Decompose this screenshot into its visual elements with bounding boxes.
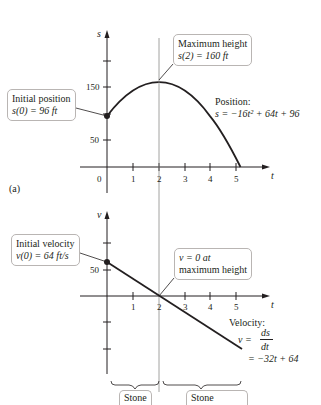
brace-right-icon	[163, 381, 241, 389]
panel-label-a: (a)	[9, 183, 20, 194]
callout-maximum-height-value: s(2) = 160 ft	[178, 50, 247, 62]
t-axis-arrow-icon	[262, 294, 270, 299]
s-axis-arrow-icon	[105, 30, 110, 38]
callout-zero-velocity-title: v = 0 at	[179, 252, 247, 264]
x-tick-0: 0	[97, 174, 102, 184]
x-tick-5-bottom: 5	[234, 302, 239, 312]
velocity-eq-rhs: = −32t + 64	[248, 353, 299, 364]
x-tick-4-bottom: 4	[208, 302, 213, 312]
velocity-eq-denominator: dt	[261, 341, 269, 352]
brace-left-icon	[111, 381, 159, 389]
t-axis-label-bottom: t	[271, 299, 274, 310]
t-axis-arrow-icon	[262, 165, 270, 170]
callout-initial-position: Initial position s(0) = 96 ft	[7, 89, 76, 121]
brace-label-right-text: Stone	[191, 392, 214, 403]
fraction-bar	[260, 339, 273, 340]
callout-maximum-height-title: Maximum height	[178, 38, 247, 50]
x-tick-3: 3	[183, 174, 188, 184]
callout-initial-position-value: s(0) = 96 ft	[12, 105, 71, 117]
brace-label-left-text: Stone	[124, 392, 147, 403]
x-tick-1: 1	[131, 174, 136, 184]
x-tick-3-bottom: 3	[183, 302, 188, 312]
callout-zero-velocity: v = 0 at maximum height	[174, 248, 252, 280]
y-tick-150: 150	[86, 82, 100, 92]
x-tick-2: 2	[157, 174, 162, 184]
callout-initial-velocity-value: v(0) = 64 ft/s	[16, 250, 75, 262]
position-curve	[107, 82, 241, 167]
callout-initial-velocity-title: Initial velocity	[16, 238, 75, 250]
position-equation: s = −16t² + 64t + 96	[215, 108, 299, 119]
brace-label-right: Stone	[186, 390, 248, 405]
t-axis-label: t	[271, 170, 274, 181]
v-axis-label: v	[97, 209, 101, 220]
v-tick-50: 50	[90, 265, 99, 275]
position-label: Position:	[215, 96, 251, 107]
velocity-label: Velocity:	[229, 317, 265, 328]
velocity-eq-numerator: ds	[261, 327, 270, 338]
s-axis-label: s	[97, 28, 101, 39]
brace-label-left: Stone	[119, 390, 152, 405]
callout-zero-velocity-value: maximum height	[179, 264, 247, 276]
x-tick-4: 4	[208, 174, 213, 184]
callout-initial-velocity: Initial velocity v(0) = 64 ft/s	[11, 234, 80, 266]
x-tick-1-bottom: 1	[131, 302, 136, 312]
callout-initial-position-title: Initial position	[12, 93, 71, 105]
x-tick-5: 5	[234, 174, 239, 184]
y-tick-50: 50	[90, 135, 99, 145]
callout-maximum-height: Maximum height s(2) = 160 ft	[173, 34, 252, 66]
x-tick-2-bottom: 2	[157, 302, 162, 312]
v-axis-arrow-icon	[105, 211, 110, 219]
velocity-eq-lhs: v =	[238, 334, 252, 345]
